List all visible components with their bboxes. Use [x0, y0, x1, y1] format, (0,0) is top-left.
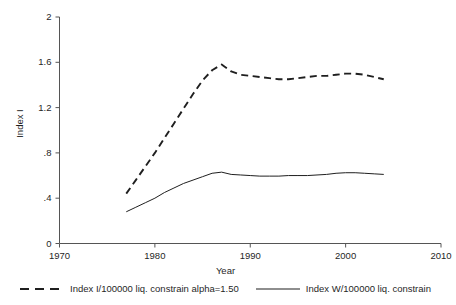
y-axis-label: Index I — [14, 94, 25, 154]
y-tick-label: .4 — [0, 193, 52, 203]
y-axis-ticks — [56, 17, 60, 244]
x-tick-label: 1980 — [130, 251, 180, 261]
chart-legend: Index I/100000 liq. constrain alpha=1.50… — [0, 283, 451, 294]
x-tick-label: 2000 — [321, 251, 371, 261]
y-tick-label: 1.6 — [0, 57, 52, 67]
x-axis-ticks — [60, 244, 442, 248]
legend-item-index-w: Index W/100000 liq. constrain — [256, 283, 431, 294]
x-tick-label: 1990 — [225, 251, 275, 261]
data-series-group — [126, 65, 384, 212]
series-line-index-w — [126, 172, 384, 212]
legend-label-index-w: Index W/100000 liq. constrain — [306, 283, 431, 294]
legend-swatch-solid — [256, 285, 300, 293]
legend-item-index-i: Index I/100000 liq. constrain alpha=1.50 — [20, 283, 239, 294]
series-line-index-i — [126, 65, 384, 194]
x-tick-label: 2010 — [416, 251, 456, 261]
y-tick-label: .8 — [0, 148, 52, 158]
legend-label-index-i: Index I/100000 liq. constrain alpha=1.50 — [70, 283, 239, 294]
legend-swatch-dashed — [20, 285, 64, 293]
y-tick-label: 0 — [0, 239, 52, 249]
x-axis-label: Year — [0, 265, 451, 276]
x-tick-label: 1970 — [35, 251, 85, 261]
y-tick-label: 1.2 — [0, 103, 52, 113]
axis-group — [56, 17, 442, 248]
y-tick-label: 2 — [0, 12, 52, 22]
